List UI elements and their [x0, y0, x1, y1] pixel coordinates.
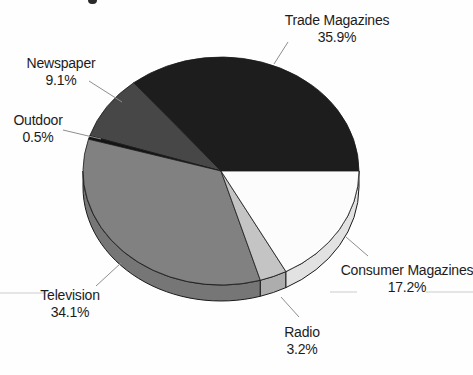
slice-label-television: Television 34.1%: [40, 287, 99, 321]
slice-percent: 17.2%: [341, 279, 473, 296]
slice-name: Radio: [284, 324, 320, 341]
slice-percent: 3.2%: [284, 341, 320, 358]
pie-chart-figure: Trade Magazines 35.9% Newspaper 9.1% Out…: [0, 0, 473, 375]
slice-percent: 0.5%: [13, 129, 62, 146]
slice-label-newspaper: Newspaper 9.1%: [26, 55, 95, 89]
slice-label-radio: Radio 3.2%: [284, 324, 320, 358]
slice-name: Consumer Magazines: [341, 262, 473, 279]
slice-name: Newspaper: [26, 55, 95, 72]
slice-name: Trade Magazines: [285, 12, 390, 29]
slice-label-trade-magazines: Trade Magazines 35.9%: [285, 12, 390, 46]
slice-name: Outdoor: [13, 112, 62, 129]
leader-line-consumer-magazines: [346, 237, 368, 256]
slice-percent: 9.1%: [26, 72, 95, 89]
slice-name: Television: [40, 287, 99, 304]
slice-label-outdoor: Outdoor 0.5%: [13, 112, 62, 146]
leader-line-television: [96, 263, 121, 286]
slice-label-consumer-magazines: Consumer Magazines 17.2%: [341, 262, 473, 296]
slice-percent: 35.9%: [285, 29, 390, 46]
slice-percent: 34.1%: [40, 304, 99, 321]
leader-line-radio: [281, 297, 299, 317]
